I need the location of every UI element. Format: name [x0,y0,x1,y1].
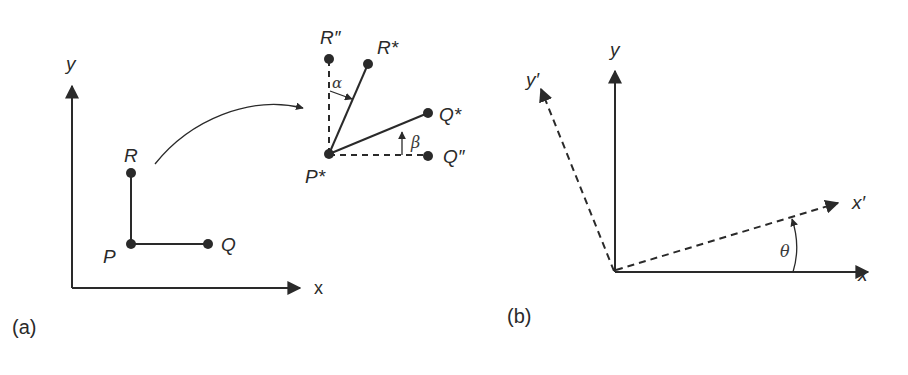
theta-arc [792,219,797,272]
point-R [126,168,136,178]
x-axis-label-a: x [314,278,323,298]
transform-arrow [155,105,303,164]
label-beta: β [410,133,420,152]
y-prime-label: y′ [524,69,541,90]
label-Q-dprime: Q″ [443,146,466,167]
panel-b: θ y x y′ x′ (b) [507,39,869,327]
label-alpha: α [332,74,342,92]
y-prime-axis [541,89,614,271]
point-R-star [363,59,373,69]
point-Q-dprime [423,151,433,161]
label-R-star: R* [377,37,399,58]
caption-a: (a) [12,316,36,338]
label-Q-star: Q* [439,104,462,125]
y-axis-label-a: y [64,53,77,74]
x-prime-label: x′ [851,192,867,213]
caption-b: (b) [507,305,531,327]
label-P-star: P* [305,166,326,187]
point-R-dprime [324,54,334,64]
label-R-dprime: R″ [320,27,342,48]
label-R: R [124,145,138,166]
rotation-diagram: y x P Q R α β R″ R* Q* Q″ P* (a) [0,0,908,375]
point-P [126,239,136,249]
x-prime-axis [616,203,838,270]
label-Q: Q [221,234,236,255]
label-P: P [103,246,116,267]
label-theta: θ [780,242,790,261]
y-axis-label-b: y [608,39,621,60]
point-Q [203,239,213,249]
point-Q-star [423,108,433,118]
alpha-arc-arrow [330,91,352,99]
point-P-star [324,149,334,159]
x-axis-label-b: x [857,264,869,285]
panel-a: y x P Q R α β R″ R* Q* Q″ P* (a) [12,27,466,338]
